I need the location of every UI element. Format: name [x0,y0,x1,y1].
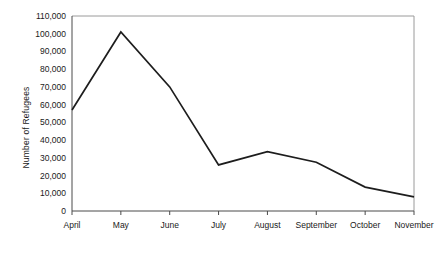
plot-frame-border [72,16,414,211]
y-axis-tick-label: 110,000 [36,11,66,21]
chart-plot-area: 010,00020,00030,00040,00050,00060,00070,… [0,0,444,255]
y-axis-tick-label: 0 [61,206,66,216]
y-axis-tick-label: 80,000 [40,64,66,74]
y-axis-tick-labels: 010,00020,00030,00040,00050,00060,00070,… [35,11,66,216]
x-axis-tick-label: May [113,220,130,230]
y-axis-tick-label: 90,000 [40,46,66,56]
y-axis-tick-label: 50,000 [40,117,66,127]
x-axis-tick-label: November [394,220,433,230]
refugees-data-line [72,32,414,197]
y-axis-tick-label: 40,000 [40,135,66,145]
x-axis-tick-label: August [254,220,281,230]
y-axis-tick-label: 20,000 [40,171,66,181]
x-axis-tick-label: July [211,220,227,230]
axis-tick-marks [72,211,414,215]
x-axis-tick-label: October [350,220,380,230]
x-axis-tick-label: April [63,220,80,230]
y-axis-tick-label: 100,000 [35,29,66,39]
x-axis-tick-label: September [295,220,337,230]
x-axis-tick-label: June [160,220,179,230]
y-axis-tick-label: 30,000 [40,153,66,163]
y-axis-tick-label: 60,000 [40,100,66,110]
y-axis-tick-label: 10,000 [40,188,66,198]
refugees-line-chart: Number of Refugees 010,00020,00030,00040… [0,0,444,255]
y-axis-tick-label: 70,000 [40,82,66,92]
x-axis-tick-labels: AprilMayJuneJulyAugustSeptemberOctoberNo… [63,220,433,230]
